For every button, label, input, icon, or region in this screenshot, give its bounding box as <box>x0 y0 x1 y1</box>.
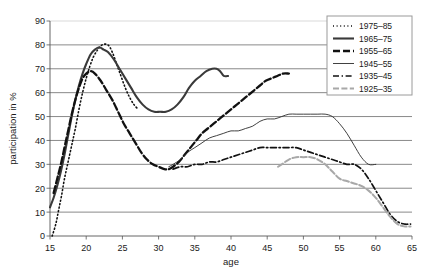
legend-label: 1945–55 <box>359 59 392 69</box>
x-tick-label: 35 <box>190 243 200 253</box>
y-tick-label: 60 <box>35 88 45 98</box>
y-tick-label: 20 <box>35 184 45 194</box>
legend-label: 1955–65 <box>359 46 392 56</box>
legend-label: 1965–75 <box>359 34 392 44</box>
y-tick-label: 50 <box>35 112 45 122</box>
chart-canvas: 0102030405060708090 15202530354045505560… <box>0 0 424 271</box>
x-tick-label: 30 <box>154 243 164 253</box>
x-tick-label: 60 <box>371 243 381 253</box>
x-axis-title: age <box>223 256 239 267</box>
x-tick-label: 25 <box>117 243 127 253</box>
y-axis-title: participation in % <box>7 92 18 165</box>
x-tick-label: 15 <box>45 243 55 253</box>
x-tick-label: 40 <box>226 243 236 253</box>
y-tick-label: 70 <box>35 64 45 74</box>
legend-label: 1975–85 <box>359 21 392 31</box>
x-tick-label: 65 <box>407 243 417 253</box>
x-tick-label: 50 <box>298 243 308 253</box>
y-tick-label: 40 <box>35 136 45 146</box>
legend-label: 1925–35 <box>359 84 392 94</box>
y-tick-label: 30 <box>35 160 45 170</box>
y-tick-label: 80 <box>35 40 45 50</box>
y-tick-label: 90 <box>35 16 45 26</box>
x-tick-label: 55 <box>335 243 345 253</box>
x-tick-label: 45 <box>262 243 272 253</box>
y-tick-label: 0 <box>40 231 45 241</box>
participation-by-age-chart: 0102030405060708090 15202530354045505560… <box>0 0 424 271</box>
x-tick-label: 20 <box>81 243 91 253</box>
y-tick-label: 10 <box>35 208 45 218</box>
chart-legend: 1975–851965–751955–651945–551935–451925–… <box>327 16 412 95</box>
legend-label: 1935–45 <box>359 71 392 81</box>
